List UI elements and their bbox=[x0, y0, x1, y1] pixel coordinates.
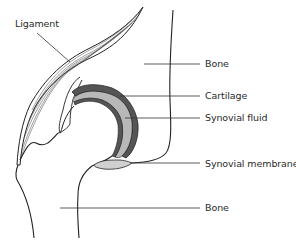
lower-bone-outline bbox=[16, 165, 34, 238]
label-bone-bottom: Bone bbox=[205, 202, 229, 213]
label-synovial-membrane: Synovial membrane bbox=[205, 158, 296, 169]
leader-line-ligament bbox=[37, 33, 70, 62]
upper-bone-outline bbox=[132, 10, 173, 163]
label-bone-top: Bone bbox=[205, 58, 229, 69]
label-ligament: Ligament bbox=[15, 18, 59, 29]
synovial-joint-diagram: Ligament Bone Cartilage Synovial fluid S… bbox=[0, 0, 296, 249]
synovial-membrane bbox=[94, 160, 132, 169]
label-synovial-fluid: Synovial fluid bbox=[205, 112, 268, 123]
diagram-artwork bbox=[0, 0, 296, 249]
femoral-head-outline bbox=[20, 133, 58, 160]
label-cartilage: Cartilage bbox=[205, 90, 247, 101]
